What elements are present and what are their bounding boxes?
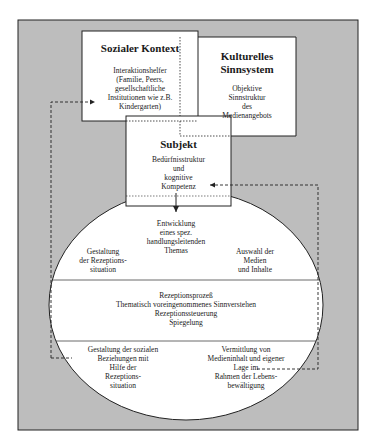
text-line: Rezeptionssteuerung	[86, 309, 286, 318]
text-line: Institutionen wie z.B.	[82, 93, 198, 102]
text-line: Vermittlung von	[196, 345, 296, 354]
text-line: und Inhalte	[220, 265, 290, 274]
social-relations-label: Gestaltung der sozialen Beziehungen mit …	[78, 345, 168, 390]
text-line: Spiegelung	[86, 318, 286, 327]
cultural-system-body: Objektive Sinnstruktur des Medienangebot…	[198, 84, 296, 120]
reception-situation-label: Gestaltung der Rezeptions- situation	[68, 247, 138, 274]
text-line: des	[198, 102, 296, 111]
text-line: Thematisch voreingenommenes Sinnverstehe…	[86, 300, 286, 309]
text-line: Hilfe der	[78, 363, 168, 372]
text-line: Lage im	[196, 363, 296, 372]
text-line: bewältigung	[196, 381, 296, 390]
text-line: gesellschaftliche	[82, 84, 198, 93]
social-context-title: Sozialer Kontext	[82, 42, 198, 55]
text-line: und	[126, 164, 231, 173]
text-line: Sinnstruktur	[198, 93, 296, 102]
text-line: Interaktionshelfer	[82, 66, 198, 75]
text-line: situation	[78, 381, 168, 390]
text-line: Themas	[126, 246, 226, 255]
media-mediation-label: Vermittlung von Medieninhalt und eigener…	[196, 345, 296, 390]
text-line: Kompetenz	[126, 182, 231, 191]
text-line: situation	[68, 265, 138, 274]
text-line: der Rezeptions-	[68, 256, 138, 265]
text-line: Gestaltung der sozialen	[78, 345, 168, 354]
text-line: Medieninhalt und eigener	[196, 354, 296, 363]
reception-process-label: Rezeptionsprozeß Thematisch voreingenomm…	[86, 291, 286, 327]
text-line: kognitive	[126, 173, 231, 182]
text-line: Kindergarten)	[82, 102, 198, 111]
text-line: Objektive	[198, 84, 296, 93]
text-line: Rezeptionsprozeß	[86, 291, 286, 300]
text-line: Entwicklung	[126, 219, 226, 228]
cultural-system-title: Kulturelles Sinnsystem	[198, 50, 296, 76]
text-line: Medienangebots	[198, 111, 296, 120]
subject-body: Bedürfnisstruktur und kognitive Kompeten…	[126, 155, 231, 191]
subject-title: Subjekt	[126, 138, 231, 151]
text-line: eines spez.	[126, 228, 226, 237]
theme-development-label: Entwicklung eines spez. handlungsleitend…	[126, 219, 226, 255]
text-line: Bedürfnisstruktur	[126, 155, 231, 164]
text-line: Sinnsystem	[198, 63, 296, 76]
social-context-body: Interaktionshelfer (Familie, Peers, gese…	[82, 66, 198, 111]
diagram-canvas: Sozialer Kontext Interaktionshelfer (Fam…	[0, 0, 372, 447]
media-selection-label: Auswahl der Medien und Inhalte	[220, 247, 290, 274]
text-line: handlungsleitenden	[126, 237, 226, 246]
text-line: Kulturelles	[198, 50, 296, 63]
text-line: Beziehungen mit	[78, 354, 168, 363]
text-line: Rezeptions-	[78, 372, 168, 381]
text-line: (Familie, Peers,	[82, 75, 198, 84]
text-line: Auswahl der	[220, 247, 290, 256]
text-line: Rahmen der Lebens-	[196, 372, 296, 381]
text-line: Gestaltung	[68, 247, 138, 256]
text-line: Medien	[220, 256, 290, 265]
